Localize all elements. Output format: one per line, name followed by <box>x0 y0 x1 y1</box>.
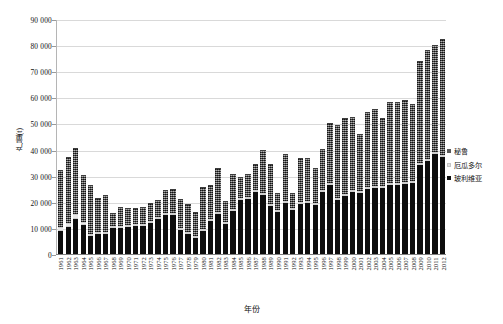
bar-segment-peru <box>372 109 377 186</box>
bar-segment-bolivia <box>342 196 347 254</box>
stacked-bar <box>275 193 280 254</box>
bar-column[interactable] <box>304 20 311 254</box>
x-axis-tick: 1994 <box>305 257 313 271</box>
bar-column[interactable] <box>319 20 326 254</box>
x-axis-tick: 1966 <box>95 257 103 271</box>
bar-column[interactable] <box>439 20 446 254</box>
stacked-bar <box>440 39 445 254</box>
bar-column[interactable] <box>274 20 281 254</box>
stacked-bar <box>417 61 422 254</box>
stacked-bar <box>305 158 310 254</box>
bar-column[interactable] <box>371 20 378 254</box>
bar-column[interactable] <box>401 20 408 254</box>
x-axis-tick: 2001 <box>357 257 365 271</box>
y-axis-tick-label: 10 000 <box>30 224 52 233</box>
bar-column[interactable] <box>282 20 289 254</box>
bar-column[interactable] <box>124 20 131 254</box>
bar-column[interactable] <box>87 20 94 254</box>
bar-column[interactable] <box>117 20 124 254</box>
bar-column[interactable] <box>214 20 221 254</box>
bar-column[interactable] <box>386 20 393 254</box>
bar-column[interactable] <box>252 20 259 254</box>
bar-column[interactable] <box>229 20 236 254</box>
x-axis-tick: 1987 <box>252 257 260 271</box>
bar-column[interactable] <box>192 20 199 254</box>
x-axis-tick: 1988 <box>260 257 268 271</box>
bar-column[interactable] <box>424 20 431 254</box>
bar-segment-bolivia <box>125 227 130 254</box>
bar-segment-bolivia <box>387 185 392 254</box>
bar-segment-peru <box>200 187 205 229</box>
bar-column[interactable] <box>57 20 64 254</box>
bar-column[interactable] <box>259 20 266 254</box>
bar-column[interactable] <box>267 20 274 254</box>
y-axis-tick-label: 70 000 <box>30 68 52 77</box>
stacked-bar <box>320 149 325 254</box>
bar-segment-peru <box>380 118 385 186</box>
stacked-bar <box>298 158 303 254</box>
y-axis-tick-label: 80 000 <box>30 42 52 51</box>
bar-column[interactable] <box>72 20 79 254</box>
bar-segment-bolivia <box>290 210 295 254</box>
bar-column[interactable] <box>79 20 86 254</box>
bar-column[interactable] <box>334 20 341 254</box>
bar-segment-bolivia <box>200 231 205 254</box>
bar-segment-peru <box>110 213 115 226</box>
bar-column[interactable] <box>349 20 356 254</box>
bar-column[interactable] <box>356 20 363 254</box>
bar-column[interactable] <box>364 20 371 254</box>
bar-column[interactable] <box>237 20 244 254</box>
bar-column[interactable] <box>326 20 333 254</box>
bar-column[interactable] <box>102 20 109 254</box>
x-axis-tick-label: 1986 <box>245 257 252 271</box>
bar-segment-peru <box>313 168 318 203</box>
bar-column[interactable] <box>289 20 296 254</box>
x-axis-tick-label: 2002 <box>365 257 372 271</box>
bar-column[interactable] <box>199 20 206 254</box>
bar-column[interactable] <box>184 20 191 254</box>
bar-column[interactable] <box>207 20 214 254</box>
bar-segment-peru <box>215 168 220 211</box>
bar-column[interactable] <box>222 20 229 254</box>
bar-segment-bolivia <box>268 206 273 254</box>
x-axis-tick-label: 1998 <box>335 257 342 271</box>
bar-segment-peru <box>88 185 93 233</box>
bar-column[interactable] <box>311 20 318 254</box>
x-axis-tick-label: 2010 <box>425 257 432 271</box>
bar-column[interactable] <box>341 20 348 254</box>
bar-column[interactable] <box>416 20 423 254</box>
x-axis-tick-label: 1975 <box>162 257 169 271</box>
bar-segment-peru <box>290 193 295 208</box>
stacked-bar <box>208 185 213 254</box>
bar-column[interactable] <box>162 20 169 254</box>
bar-column[interactable] <box>109 20 116 254</box>
stacked-bar <box>155 200 160 254</box>
bar-column[interactable] <box>244 20 251 254</box>
bar-segment-bolivia <box>372 188 377 254</box>
bar-column[interactable] <box>177 20 184 254</box>
bar-column[interactable] <box>409 20 416 254</box>
bar-column[interactable] <box>94 20 101 254</box>
bar-column[interactable] <box>394 20 401 254</box>
bar-segment-peru <box>125 208 130 225</box>
legend-item-ecuador[interactable]: 厄瓜多尔 <box>447 160 482 170</box>
bar-column[interactable] <box>139 20 146 254</box>
x-axis-tick: 2003 <box>372 257 380 271</box>
bar-column[interactable] <box>154 20 161 254</box>
bar-column[interactable] <box>132 20 139 254</box>
bar-segment-peru <box>170 189 175 213</box>
stacked-bar <box>170 189 175 254</box>
bar-column[interactable] <box>297 20 304 254</box>
bar-segment-peru <box>298 158 303 203</box>
bar-column[interactable] <box>431 20 438 254</box>
bar-segment-bolivia <box>253 192 258 254</box>
legend-item-bolivia[interactable]: 玻利维亚 <box>447 173 482 183</box>
bar-segment-bolivia <box>88 236 93 254</box>
bar-column[interactable] <box>147 20 154 254</box>
x-axis-line <box>56 254 446 255</box>
stacked-bar <box>313 168 318 254</box>
bar-column[interactable] <box>379 20 386 254</box>
bar-column[interactable] <box>64 20 71 254</box>
legend-item-peru[interactable]: 秘鲁 <box>447 146 482 156</box>
bar-column[interactable] <box>169 20 176 254</box>
